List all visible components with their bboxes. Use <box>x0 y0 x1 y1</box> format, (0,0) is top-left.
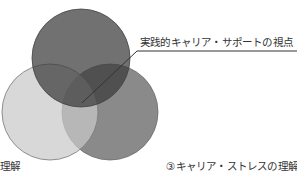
circle-top <box>32 9 130 107</box>
label-practical-career-support: 実践的キャリア・サポートの視点 <box>140 37 293 48</box>
venn-diagram <box>0 0 297 173</box>
label-left-circle: の理解 <box>0 161 21 172</box>
label-career-stress: ③キャリア・ストレスの理解 <box>166 161 297 172</box>
